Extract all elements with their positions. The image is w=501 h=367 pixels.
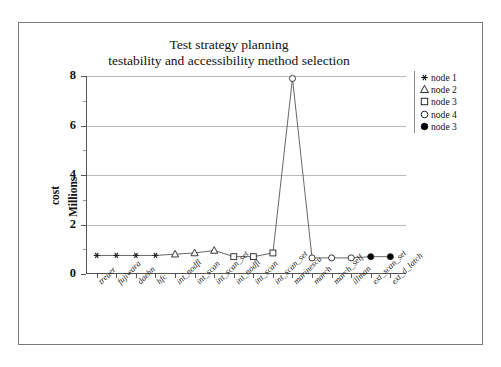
data-point-marker-circle-open — [421, 111, 428, 118]
data-point-marker-circle-filled — [421, 123, 428, 130]
legend-label: node 2 — [431, 84, 457, 95]
y-axis-label-cost: cost — [49, 186, 61, 205]
plot-area — [86, 76, 406, 274]
legend-label: node 1 — [431, 72, 457, 83]
chart-legend: node 1node 2node 3node 4node 3 — [414, 71, 489, 133]
y-axis-tick-label: 0 — [46, 266, 76, 281]
data-point-marker-asterisk — [421, 74, 427, 80]
chart-title-line2: testability and accessibility method sel… — [59, 53, 399, 69]
y-axis-minor-tick — [83, 150, 86, 151]
legend-marker-circle-open-icon — [419, 109, 430, 120]
legend-item[interactable]: node 3 — [419, 121, 489, 133]
y-axis-tick-label: 6 — [46, 118, 76, 133]
gridline — [87, 225, 406, 226]
legend-item[interactable]: node 4 — [419, 108, 489, 120]
legend-item[interactable]: node 3 — [419, 96, 489, 108]
legend-marker-triangle-open-icon — [419, 84, 430, 95]
chart-title-line1: Test strategy planning — [59, 37, 399, 53]
legend-marker-square-open-icon — [419, 96, 430, 107]
y-axis-tick — [81, 274, 86, 275]
legend-label: node 4 — [431, 109, 457, 120]
cropped-caption-text: cost estimates — [6, 0, 56, 2]
y-axis-tick-label: 2 — [46, 217, 76, 232]
y-axis-minor-tick — [83, 200, 86, 201]
y-axis-tick-label: 4 — [46, 167, 76, 182]
legend-marker-asterisk-icon — [419, 72, 430, 83]
y-axis-minor-tick — [83, 101, 86, 102]
y-axis-tick — [81, 126, 86, 127]
chart-title: Test strategy planning testability and a… — [59, 37, 399, 69]
y-axis-tick — [81, 76, 86, 77]
legend-marker-circle-filled-icon — [419, 121, 430, 132]
y-axis-tick-label: 8 — [46, 68, 76, 83]
legend-label: node 3 — [431, 121, 457, 132]
legend-item[interactable]: node 1 — [419, 71, 489, 83]
gridline — [87, 175, 406, 176]
y-axis-tick — [81, 225, 86, 226]
data-point-marker-square-open — [421, 99, 427, 105]
legend-item[interactable]: node 2 — [419, 83, 489, 95]
gridline — [87, 126, 406, 127]
y-axis-tick — [81, 175, 86, 176]
gridline — [87, 76, 406, 77]
figure-frame: Test strategy planning testability and a… — [18, 22, 483, 345]
data-point-marker-triangle-open — [421, 85, 429, 92]
legend-label: node 3 — [431, 96, 457, 107]
y-axis-label-millions: Millions — [67, 177, 79, 217]
y-axis-minor-tick — [83, 249, 86, 250]
